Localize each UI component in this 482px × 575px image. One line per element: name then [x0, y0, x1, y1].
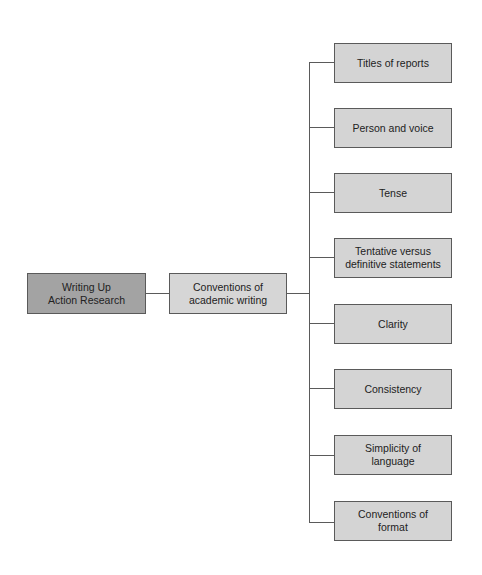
- connector-middle-to-trunk: [287, 293, 310, 294]
- branch-line-1: [309, 62, 334, 63]
- root-node-label: Writing Up Action Research: [48, 281, 125, 307]
- leaf-node-simplicity-of-language: Simplicity of language: [334, 435, 452, 475]
- leaf-node-label: Tense: [379, 187, 407, 200]
- middle-node-conventions-of-academic-writing: Conventions of academic writing: [169, 273, 287, 314]
- leaf-node-label: Consistency: [364, 383, 421, 396]
- leaf-node-label: Titles of reports: [357, 57, 429, 70]
- branch-line-6: [309, 388, 334, 389]
- leaf-node-label: Conventions of format: [358, 508, 428, 534]
- middle-node-label: Conventions of academic writing: [189, 281, 267, 307]
- branch-line-5: [309, 323, 334, 324]
- branch-line-8: [309, 522, 334, 523]
- leaf-node-titles-of-reports: Titles of reports: [334, 43, 452, 83]
- leaf-node-consistency: Consistency: [334, 369, 452, 409]
- vertical-trunk-line: [309, 62, 310, 523]
- leaf-node-clarity: Clarity: [334, 304, 452, 344]
- leaf-node-conventions-of-format: Conventions of format: [334, 501, 452, 541]
- leaf-node-label: Tentative versus definitive statements: [345, 245, 441, 271]
- leaf-node-tense: Tense: [334, 173, 452, 213]
- leaf-node-tentative-versus-definitive: Tentative versus definitive statements: [334, 238, 452, 278]
- branch-line-7: [309, 455, 334, 456]
- connector-root-to-middle: [146, 293, 169, 294]
- leaf-node-label: Simplicity of language: [365, 442, 421, 468]
- leaf-node-label: Person and voice: [352, 122, 433, 135]
- branch-line-4: [309, 257, 334, 258]
- branch-line-2: [309, 127, 334, 128]
- leaf-node-person-and-voice: Person and voice: [334, 108, 452, 148]
- root-node-writing-up-action-research: Writing Up Action Research: [27, 273, 146, 314]
- branch-line-3: [309, 192, 334, 193]
- leaf-node-label: Clarity: [378, 318, 408, 331]
